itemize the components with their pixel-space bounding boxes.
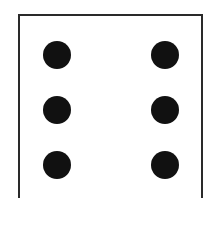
pip-dot <box>43 41 71 69</box>
pip-dot <box>43 96 71 124</box>
pip-dot <box>151 41 179 69</box>
pip-dot <box>151 96 179 124</box>
pip-dot <box>151 151 179 179</box>
pip-dot <box>43 151 71 179</box>
